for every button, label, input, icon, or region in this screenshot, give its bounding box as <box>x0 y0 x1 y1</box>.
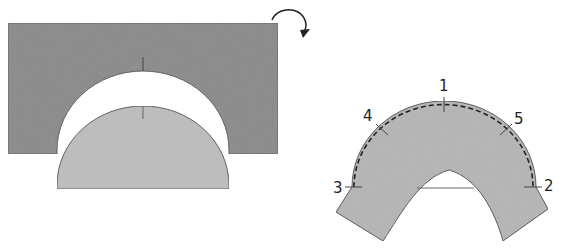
label-4: 4 <box>363 107 373 125</box>
label-2: 2 <box>544 177 554 195</box>
right-panel: 1 4 5 3 2 <box>333 77 554 241</box>
label-3: 3 <box>333 179 343 197</box>
left-panel <box>8 10 310 189</box>
label-1: 1 <box>439 77 449 95</box>
label-5: 5 <box>514 110 524 128</box>
diagram-canvas: 1 4 5 3 2 <box>0 0 567 252</box>
